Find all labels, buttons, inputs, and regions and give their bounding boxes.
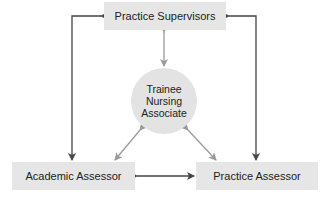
node-label-line3: Associate xyxy=(141,107,187,119)
node-academic-assessor: Academic Assessor xyxy=(12,162,135,190)
arrow-trainee-to-academic xyxy=(115,130,140,160)
node-practice-assessor: Practice Assessor xyxy=(196,162,318,190)
arrow-academic-to-supervisors xyxy=(72,16,101,160)
node-practice-supervisors: Practice Supervisors xyxy=(104,2,226,30)
node-trainee-nursing-associate: Trainee Nursing Associate xyxy=(131,68,197,134)
node-label-line1: Trainee xyxy=(146,83,181,95)
node-label: Practice Assessor xyxy=(213,170,300,182)
node-label: Practice Supervisors xyxy=(115,10,216,22)
node-label: Academic Assessor xyxy=(26,170,122,182)
arrow-trainee-to-practice-assessor xyxy=(188,130,216,160)
arrow-practice-assessor-to-supervisors xyxy=(229,16,256,160)
node-label-line2: Nursing xyxy=(146,95,182,107)
